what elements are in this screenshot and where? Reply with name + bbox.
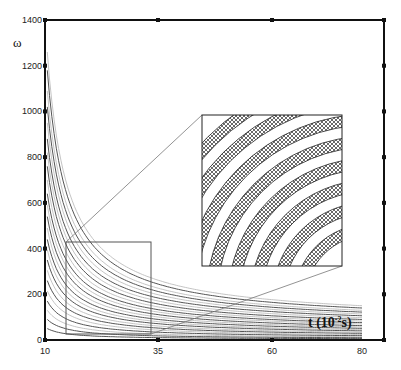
y-tick-mark bbox=[382, 292, 386, 296]
x-tick-mark bbox=[156, 338, 160, 342]
x-tick-mark bbox=[43, 18, 47, 22]
y-tick-label: 1400 bbox=[22, 15, 42, 25]
y-tick-label: 0 bbox=[37, 335, 42, 345]
x-tick-mark bbox=[270, 18, 274, 22]
x-tick-mark bbox=[270, 338, 274, 342]
y-tick-mark bbox=[43, 292, 47, 296]
y-axis-label: ω bbox=[13, 35, 22, 50]
y-tick-mark bbox=[382, 155, 386, 159]
x-tick-mark bbox=[43, 338, 47, 342]
chart: 0200400600800100012001400 10356080 ω t (… bbox=[0, 0, 401, 370]
x-axis-label: t (10-2s) bbox=[308, 315, 352, 331]
y-tick-mark bbox=[382, 247, 386, 251]
magnified-inset bbox=[140, 70, 370, 300]
y-tick-mark bbox=[43, 201, 47, 205]
x-tick-label: 35 bbox=[153, 346, 163, 356]
y-tick-mark bbox=[382, 18, 386, 22]
y-tick-mark bbox=[382, 64, 386, 68]
y-tick-mark bbox=[43, 247, 47, 251]
y-tick-label: 200 bbox=[27, 289, 42, 299]
y-tick-label: 400 bbox=[27, 244, 42, 254]
y-tick-mark bbox=[43, 155, 47, 159]
y-tick-label: 1000 bbox=[22, 106, 42, 116]
y-tick-mark bbox=[382, 338, 386, 342]
y-tick-label: 600 bbox=[27, 198, 42, 208]
x-tick-label: 60 bbox=[267, 346, 277, 356]
x-tick-label: 10 bbox=[40, 346, 50, 356]
x-tick-label: 80 bbox=[357, 346, 367, 356]
y-tick-label: 1200 bbox=[22, 61, 42, 71]
y-tick-mark bbox=[43, 109, 47, 113]
y-tick-mark bbox=[382, 201, 386, 205]
y-tick-label: 800 bbox=[27, 152, 42, 162]
y-tick-mark bbox=[43, 64, 47, 68]
zoom-connector-top bbox=[66, 115, 202, 242]
y-tick-mark bbox=[382, 109, 386, 113]
x-tick-mark bbox=[156, 18, 160, 22]
